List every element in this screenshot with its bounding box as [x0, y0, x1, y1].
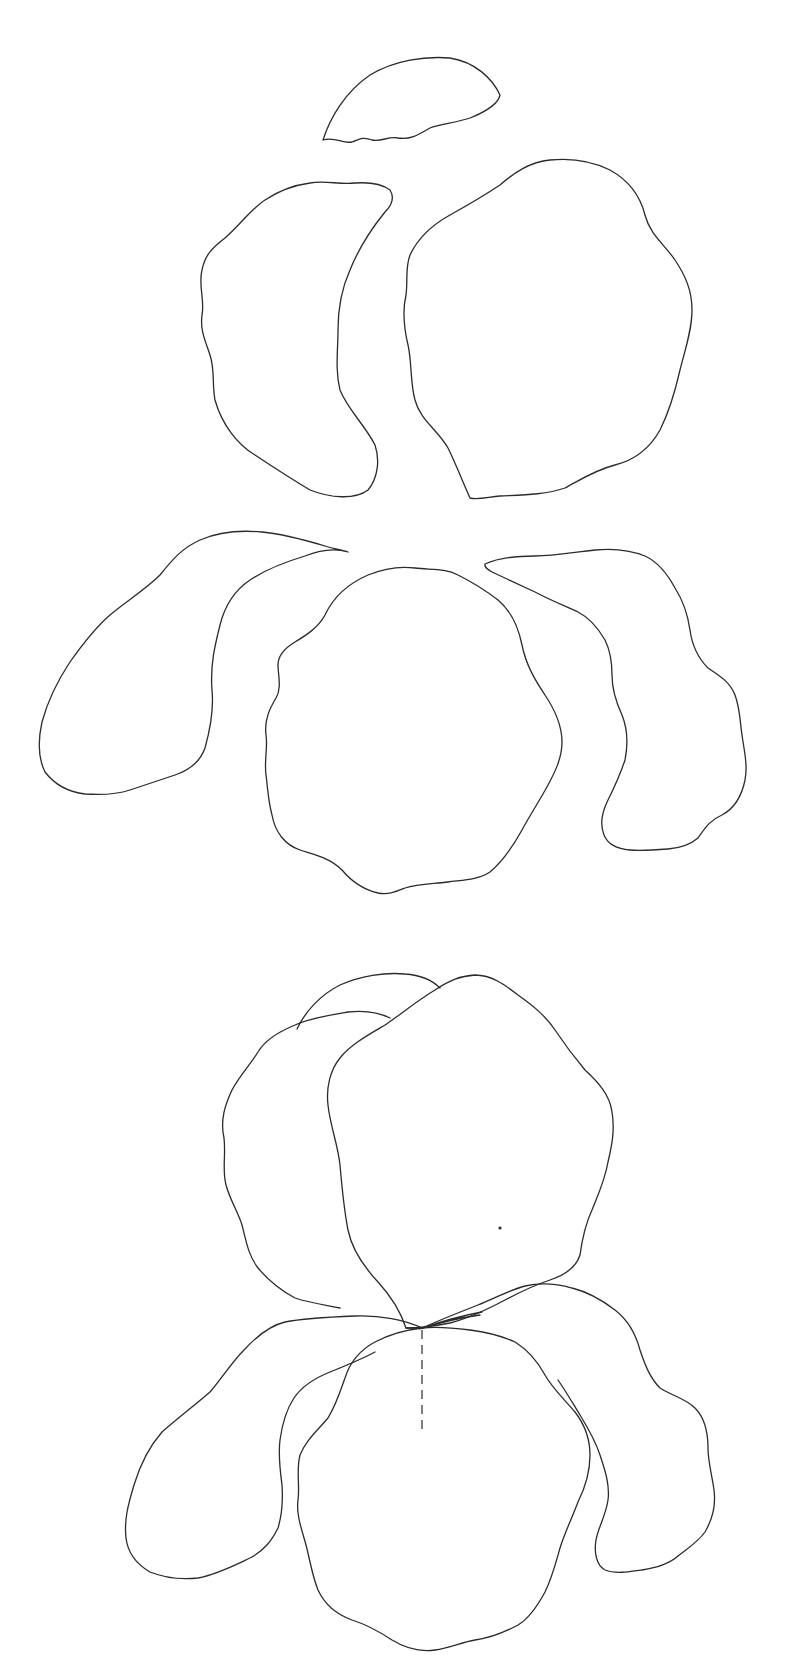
assembled-left-standard-petal	[223, 1011, 390, 1308]
separated-petals-group	[39, 58, 746, 894]
assembled-left-fall-petal	[125, 1316, 422, 1579]
right-standard-petal	[404, 159, 692, 498]
center-fall-petal	[265, 567, 562, 893]
left-standard-petal	[201, 182, 393, 497]
left-fall-petal	[39, 531, 348, 794]
placement-dot	[498, 1226, 501, 1229]
assembled-right-standard-petal	[328, 975, 614, 1328]
top-crest-petal	[323, 58, 500, 143]
right-fall-petal	[485, 549, 746, 850]
assembled-iris-group	[125, 973, 714, 1650]
iris-template-drawing	[0, 0, 788, 1670]
assembled-center-fall-petal	[298, 1327, 590, 1650]
assembled-right-fall-petal	[422, 1284, 715, 1572]
